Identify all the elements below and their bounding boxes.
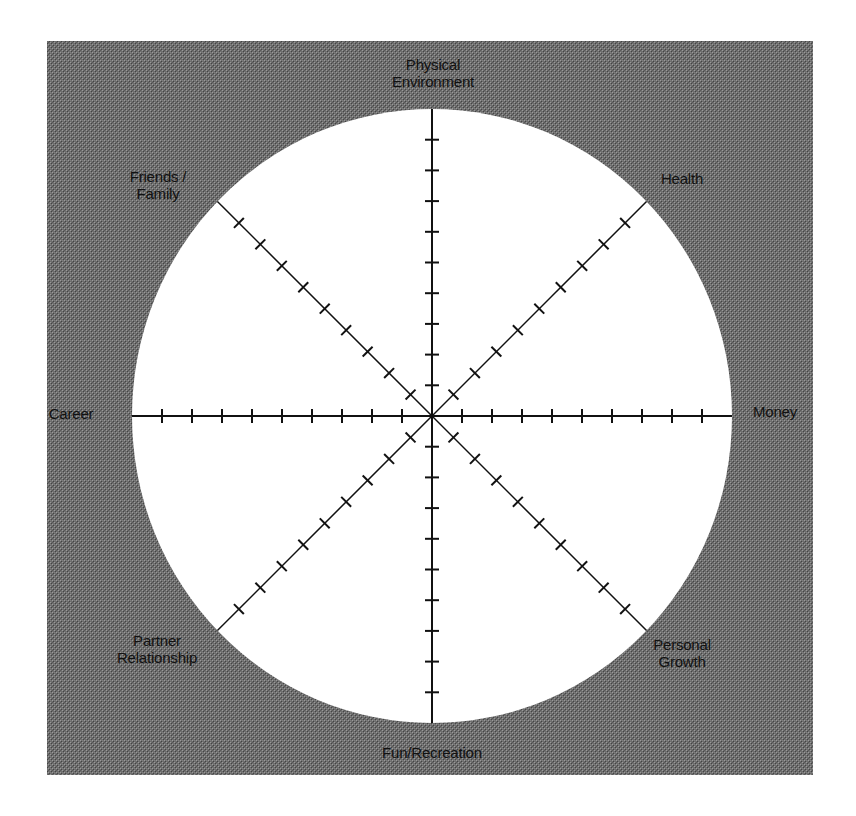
label-health: Health: [652, 170, 712, 187]
label-money: Money: [743, 403, 807, 420]
label-fun-recreation: Fun/Recreation: [356, 744, 508, 761]
label-physical-environment: Physical Environment: [372, 56, 494, 90]
label-career: Career: [46, 405, 96, 422]
wheel-of-life-diagram: Physical Environment Health Money Person…: [0, 0, 856, 816]
label-partner-relationship: Partner Relationship: [98, 632, 216, 666]
label-personal-growth: Personal Growth: [644, 636, 720, 670]
wheel-canvas: [0, 0, 856, 816]
label-friends-family: Friends / Family: [116, 168, 200, 202]
